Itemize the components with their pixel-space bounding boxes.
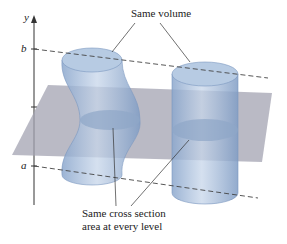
y-axis-label: y [24, 11, 29, 23]
straight-cylinder [172, 62, 238, 204]
same-volume-label: Same volume [131, 7, 191, 19]
cross-section-label-1: Same cross section [82, 207, 166, 219]
cross-section-label-2: area at every level [82, 220, 162, 232]
level-a-label: a [21, 159, 27, 171]
level-b-label: b [21, 42, 27, 54]
